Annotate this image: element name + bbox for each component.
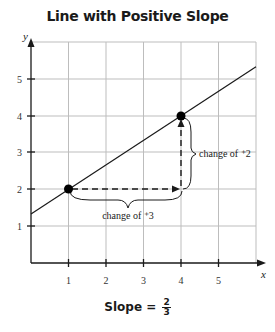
point-1-2 [64,185,73,194]
svg-text:3: 3 [141,275,146,286]
slope-denominator: 3 [162,308,170,317]
svg-text:3: 3 [17,147,22,158]
svg-text:2: 2 [104,275,109,286]
svg-text:1: 1 [66,275,71,286]
x-axis-arrow-icon [257,260,266,267]
slope-fraction: 23 [162,298,170,317]
svg-text:4: 4 [179,275,184,286]
slope-prefix: Slope = [104,300,160,314]
svg-text:4: 4 [17,111,22,122]
x-axis-label: x [260,268,266,280]
rise-brace [183,118,196,189]
slope-formula: Slope = 23 [0,298,275,317]
coordinate-plane: y x 1 2 3 4 5 1 2 3 4 5 change of ⁺3 cha… [0,0,275,332]
y-tick-labels: 1 2 3 4 5 [17,74,22,232]
svg-text:1: 1 [17,221,22,232]
svg-text:2: 2 [17,184,22,195]
svg-text:5: 5 [216,275,221,286]
run-brace [70,191,182,208]
y-axis-label: y [22,30,28,42]
run-annotation: change of ⁺3 [102,210,154,221]
run-arrowhead-icon [172,186,180,193]
rise-annotation: change of ⁺2 [199,148,251,159]
svg-text:5: 5 [17,74,22,85]
point-4-4 [177,112,186,121]
x-tick-labels: 1 2 3 4 5 [66,275,221,286]
